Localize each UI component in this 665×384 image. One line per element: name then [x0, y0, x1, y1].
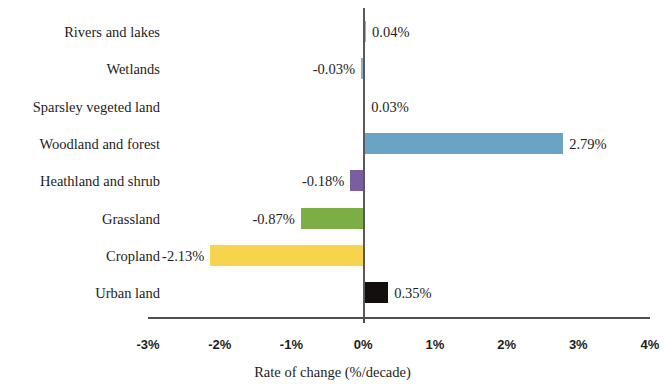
category-label: Rivers and lakes — [64, 25, 160, 40]
bar-chart: Rivers and lakesWetlandsSparsley vegeted… — [0, 0, 665, 384]
category-label: Sparsley vegeted land — [33, 100, 160, 115]
bar-value-label: -0.18% — [302, 174, 344, 189]
bar — [363, 282, 388, 303]
x-tick-label: 2% — [497, 338, 516, 351]
x-axis-line — [148, 317, 650, 319]
x-tick-label: 4% — [641, 338, 660, 351]
x-tick-label: 0% — [354, 338, 373, 351]
bar — [350, 170, 363, 191]
category-label: Heathland and shrub — [40, 174, 160, 189]
bar — [210, 245, 363, 266]
bar-value-label: -2.13% — [162, 249, 204, 264]
x-tick-label: -1% — [280, 338, 303, 351]
bar-value-label: -0.03% — [313, 62, 355, 77]
x-tick-label: -3% — [136, 338, 159, 351]
x-tick-label: -2% — [208, 338, 231, 351]
bar — [301, 208, 363, 229]
category-label: Woodland and forest — [40, 137, 160, 152]
x-tick-label: 1% — [425, 338, 444, 351]
bar — [363, 133, 563, 154]
bar-value-label: 0.35% — [394, 286, 431, 301]
bar-value-label: 0.04% — [372, 25, 409, 40]
bar-value-label: 0.03% — [371, 100, 408, 115]
bar-value-label: 2.79% — [569, 137, 606, 152]
bar-value-label: -0.87% — [252, 212, 294, 227]
x-axis-zero-tick — [363, 318, 365, 323]
x-axis-title: Rate of change (%/decade) — [0, 365, 665, 380]
plot-area: 0.04%-0.03%0.03%2.79%-0.18%-0.87%-2.13%0… — [148, 8, 650, 318]
x-tick-label: 3% — [569, 338, 588, 351]
zero-baseline — [363, 8, 365, 318]
